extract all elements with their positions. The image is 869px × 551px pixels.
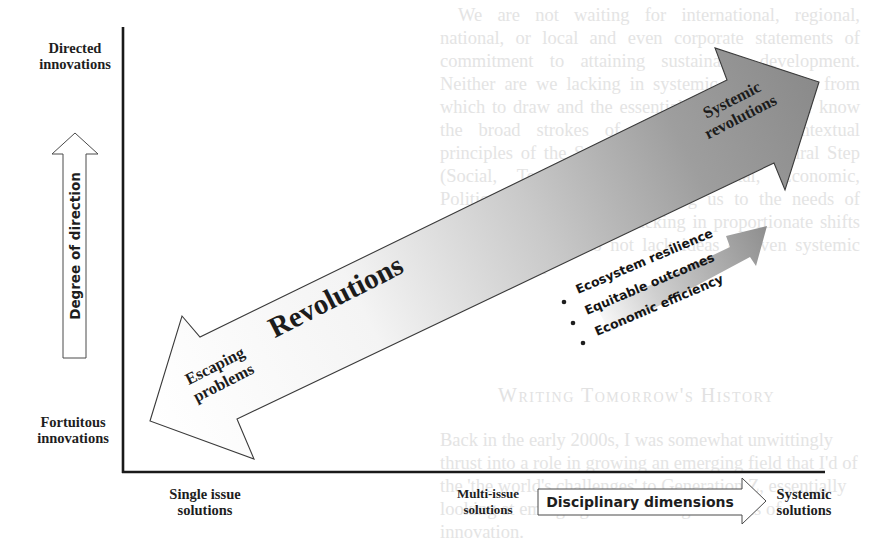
x-axis-left-label: Single issue solutions	[160, 486, 250, 518]
bullet-icon	[581, 341, 586, 346]
degree-of-direction-label: Degree of direction	[67, 172, 83, 320]
bullet-icon	[562, 300, 567, 305]
x-axis-right-label: Systemic solutions	[768, 486, 840, 518]
y-axis-bottom-label: Fortuitous innovations	[30, 414, 116, 446]
bullet-icon	[571, 321, 576, 326]
y-axis-top-label: Directed innovations	[34, 40, 116, 72]
innovation-diagram: Degree of direction Disciplinary dimensi…	[0, 0, 869, 551]
x-axis-middle-label: Multi-issue solutions	[448, 486, 528, 518]
disciplinary-dimensions-label: Disciplinary dimensions	[546, 494, 734, 510]
